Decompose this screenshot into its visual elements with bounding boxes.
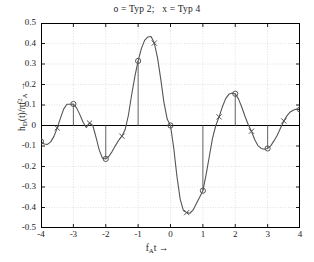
x-tick-label: -4	[29, 229, 53, 239]
y-tick-label: -0.3	[2, 181, 36, 191]
y-tick-label: 0.2	[2, 79, 36, 89]
chart-svg	[41, 23, 300, 228]
y-tick-label: 0.5	[2, 17, 36, 27]
data-curve	[41, 37, 300, 214]
x-tick-label: -3	[61, 229, 85, 239]
y-tick-label: -0.2	[2, 161, 36, 171]
x-tick-label: 1	[191, 229, 215, 239]
y-tick-label: -0.1	[2, 140, 36, 150]
plot-area	[41, 23, 300, 228]
chart-figure: o = Typ 2; x = Typ 4 hD(t)/πf2A → fAt → …	[0, 0, 314, 262]
y-tick-label: -0.4	[2, 202, 36, 212]
y-tick-label: 0	[2, 120, 36, 130]
x-tick-label: 2	[223, 229, 247, 239]
x-tick-label: 3	[256, 229, 280, 239]
x-tick-label: 0	[159, 229, 183, 239]
y-tick-label: 0.4	[2, 38, 36, 48]
x-axis-label: fAt →	[0, 243, 314, 254]
x-tick-label: 4	[288, 229, 312, 239]
x-tick-label: -1	[126, 229, 150, 239]
y-tick-label: 0.3	[2, 58, 36, 68]
y-tick-label: 0.1	[2, 99, 36, 109]
chart-title: o = Typ 2; x = Typ 4	[0, 4, 314, 14]
x-tick-label: -2	[94, 229, 118, 239]
